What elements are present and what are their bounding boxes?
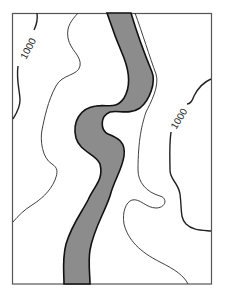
contour-map: 1000 1000	[0, 0, 225, 295]
